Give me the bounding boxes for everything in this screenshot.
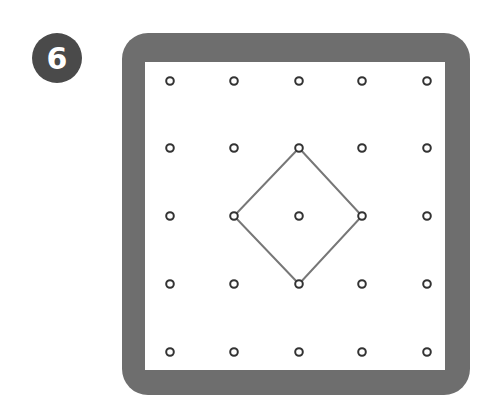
peg [423,280,431,288]
peg [423,77,431,85]
peg [166,280,174,288]
peg [358,280,366,288]
peg [166,144,174,152]
peg [358,77,366,85]
peg [166,77,174,85]
peg [230,348,238,356]
peg [230,144,238,152]
peg [423,212,431,220]
peg [230,77,238,85]
peg [295,280,303,288]
peg [166,348,174,356]
peg [358,348,366,356]
peg [358,144,366,152]
geoboard [0,0,489,406]
peg [295,212,303,220]
peg [423,144,431,152]
peg [423,348,431,356]
peg [295,348,303,356]
peg [230,280,238,288]
peg [166,212,174,220]
peg [295,77,303,85]
peg [358,212,366,220]
peg [230,212,238,220]
peg [295,144,303,152]
